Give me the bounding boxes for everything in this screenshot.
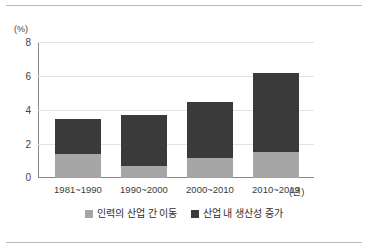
bar-segment-upper-2	[187, 102, 233, 158]
bottom-divider-rule	[6, 242, 362, 243]
y-axis-unit-label: (%)	[14, 25, 28, 34]
bar-segment-lower-1	[121, 166, 167, 178]
x-tick-label-0: 1981~1990	[54, 185, 102, 195]
top-divider-rule	[6, 5, 362, 6]
chart-legend: 인력의 산업 간 이동 산업 내 생산성 증가	[0, 209, 368, 219]
y-tick-label-2: 2	[25, 140, 31, 150]
plot-area: 8 6 4 2 0 1981~1990	[38, 42, 314, 178]
bar-group-2[interactable]: 2000~2010	[187, 42, 233, 178]
stacked-bar-1[interactable]	[121, 115, 167, 178]
bar-segment-lower-2	[187, 158, 233, 178]
stacked-bar-0[interactable]	[55, 119, 101, 179]
bar-segment-upper-3	[253, 73, 299, 152]
x-tick-label-1: 1990~2000	[120, 185, 168, 195]
bar-segment-lower-3	[253, 152, 299, 178]
y-tick-label-4: 4	[25, 106, 31, 116]
chart-figure: (%) 8 6 4 2 0 1981~1990	[0, 0, 368, 249]
y-tick-label-8: 8	[25, 38, 31, 48]
x-axis-unit-label: (년)	[289, 187, 304, 197]
bar-group-0[interactable]: 1981~1990	[55, 42, 101, 178]
x-tick-label-2: 2000~2010	[186, 185, 234, 195]
bar-series-container: 1981~1990 1990~2000 2000~2010	[38, 42, 314, 178]
y-tick-label-6: 6	[25, 72, 31, 82]
bar-group-1[interactable]: 1990~2000	[121, 42, 167, 178]
bar-segment-lower-0	[55, 154, 101, 178]
stacked-bar-2[interactable]	[187, 102, 233, 179]
legend-swatch-icon-gray	[85, 210, 93, 218]
legend-label-0: 인력의 산업 간 이동	[97, 209, 177, 219]
stacked-bar-3[interactable]	[253, 73, 299, 178]
legend-item-within-industry-productivity[interactable]: 산업 내 생산성 증가	[191, 209, 283, 219]
legend-item-labor-reallocation[interactable]: 인력의 산업 간 이동	[85, 209, 177, 219]
bar-group-3[interactable]: 2010~2019	[253, 42, 299, 178]
y-tick-label-0: 0	[25, 173, 31, 183]
legend-label-1: 산업 내 생산성 증가	[203, 209, 283, 219]
bar-segment-upper-0	[55, 119, 101, 155]
bar-segment-upper-1	[121, 115, 167, 166]
legend-swatch-icon-dark	[191, 210, 199, 218]
